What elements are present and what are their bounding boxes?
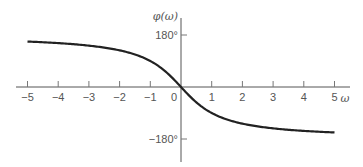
phase-plot: −5−4−3−2−1012345180°−180°φ(ω)ω: [0, 0, 363, 167]
x-tick-label: −2: [113, 91, 126, 103]
tick-labels: −5−4−3−2−1012345180°−180°φ(ω)ω: [21, 10, 349, 145]
x-tick-label: 4: [301, 91, 307, 103]
x-tick-label: 1: [209, 91, 215, 103]
y-tick-label: −180°: [149, 133, 178, 145]
x-axis-label: ω: [341, 92, 350, 105]
y-axis-label: φ(ω): [153, 10, 178, 23]
x-tick-label: −5: [21, 91, 34, 103]
y-tick-label: 180°: [155, 29, 178, 41]
x-tick-label: −3: [83, 91, 96, 103]
x-tick-label: −1: [144, 91, 157, 103]
x-tick-label: −4: [52, 91, 65, 103]
x-tick-label: 0: [171, 91, 177, 103]
x-tick-label: 2: [239, 91, 245, 103]
x-tick-label: 3: [270, 91, 276, 103]
x-tick-label: 5: [331, 91, 337, 103]
